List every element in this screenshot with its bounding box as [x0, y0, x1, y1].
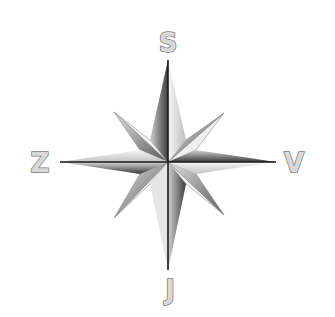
label-right: V — [284, 148, 304, 178]
label-top: S — [159, 28, 178, 58]
label-left: Z — [31, 148, 50, 178]
label-bottom: J — [163, 275, 175, 305]
compass-rose: S Z V J — [0, 0, 335, 317]
